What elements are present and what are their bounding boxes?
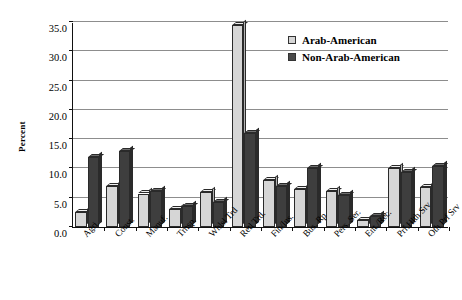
bar <box>294 186 306 227</box>
bar <box>388 165 400 227</box>
x-tick-mark <box>167 227 168 231</box>
bar-face <box>106 186 118 227</box>
bar <box>138 190 150 227</box>
x-tick-mark <box>292 227 293 231</box>
x-tick-mark <box>230 227 231 231</box>
bar <box>88 154 100 227</box>
legend-item: Non-Arab-American <box>288 48 400 65</box>
legend-swatch-light <box>288 36 296 44</box>
y-axis-title: Percent <box>14 102 30 172</box>
bar <box>357 217 369 227</box>
gridline <box>73 21 448 22</box>
x-tick-mark <box>324 227 325 231</box>
bar-face <box>326 191 338 227</box>
bar-group <box>418 23 449 227</box>
bar-group <box>73 23 104 227</box>
legend-swatch-dark <box>288 53 296 61</box>
bar-group <box>167 23 198 227</box>
bar-group <box>136 23 167 227</box>
bar-face <box>169 209 181 227</box>
bar <box>232 22 244 227</box>
bar-group <box>230 23 261 227</box>
x-tick-mark <box>449 227 450 231</box>
bar-side <box>130 145 133 224</box>
x-tick-mark <box>104 227 105 231</box>
y-tick-mark <box>69 21 73 22</box>
bar-side <box>99 151 102 224</box>
x-tick-mark <box>136 227 137 231</box>
bar-face <box>232 25 244 227</box>
x-tick-mark <box>261 227 262 231</box>
legend-label: Non-Arab-American <box>302 51 400 63</box>
bar-face <box>263 180 275 227</box>
bar-face <box>88 157 100 227</box>
bar-face <box>200 192 212 227</box>
legend-item: Arab-American <box>288 31 400 48</box>
bar <box>263 177 275 227</box>
x-tick-mark <box>418 227 419 231</box>
bar <box>200 189 212 227</box>
bar <box>106 183 118 227</box>
bar-group <box>104 23 135 227</box>
chart-legend: Arab-AmericanNon-Arab-American <box>288 31 400 65</box>
x-tick-mark <box>355 227 356 231</box>
bar-group <box>198 23 229 227</box>
bar <box>326 188 338 227</box>
bar-face <box>294 189 306 227</box>
bar <box>75 209 87 227</box>
bar <box>169 206 181 227</box>
bar-face <box>388 168 400 227</box>
bar-face <box>138 194 150 227</box>
bar <box>244 130 256 227</box>
x-tick-mark <box>386 227 387 231</box>
bar-face <box>75 212 87 227</box>
legend-label: Arab-American <box>302 34 377 46</box>
x-tick-mark <box>198 227 199 231</box>
